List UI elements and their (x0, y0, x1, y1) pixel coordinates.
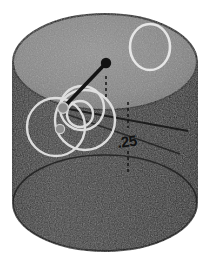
dimension-label: .25 (116, 131, 138, 151)
small-feature-dot (55, 124, 64, 133)
figure-canvas: .25 (0, 0, 212, 275)
leader-hub-dot (58, 103, 69, 114)
cylinder-diagram: .25 (0, 0, 212, 275)
leader-end-dot (101, 58, 111, 68)
